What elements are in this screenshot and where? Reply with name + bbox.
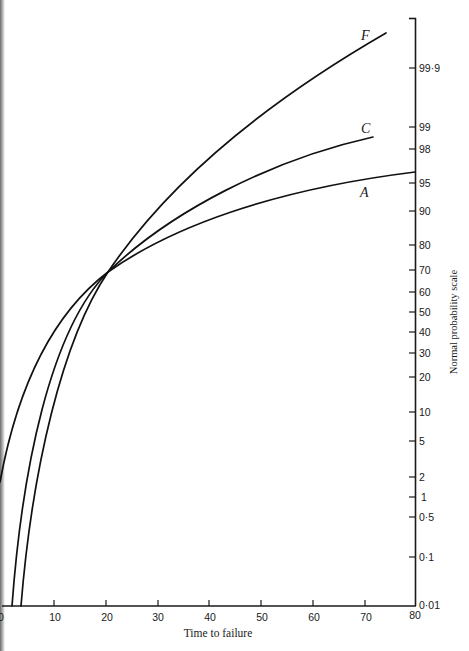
x-axis-title: Time to failure <box>184 627 253 639</box>
y-tick-label: 20 <box>419 371 431 383</box>
y-tick-label: 80 <box>419 239 431 251</box>
curve-label-A: A <box>359 185 369 200</box>
axes <box>2 18 416 606</box>
y-axis-title: Normal probability scale <box>448 269 459 374</box>
y-tick-label: 60 <box>419 286 431 298</box>
x-tick-label: 20 <box>101 611 113 623</box>
curve-A <box>0 172 415 482</box>
y-tick-label: 40 <box>419 326 431 338</box>
probability-chart: 0 10 20 30 40 50 60 70 80 Time to failur… <box>0 0 469 651</box>
x-tick-label: 10 <box>49 611 61 623</box>
curve-label-F: F <box>360 28 370 43</box>
y-tick-label: 50 <box>419 306 431 318</box>
curve-C <box>12 137 373 606</box>
y-tick-label: 0·5 <box>419 511 434 523</box>
x-tick-label: 70 <box>360 611 372 623</box>
x-tick-label: 50 <box>256 611 268 623</box>
y-tick-label: 1 <box>421 491 427 503</box>
y-tick-label: 0·1 <box>419 551 434 563</box>
y-tick-label: 2 <box>419 471 425 483</box>
y-tick-label: 5 <box>419 435 425 447</box>
x-tick-label: 0 <box>0 611 4 623</box>
x-tick-label: 40 <box>204 611 216 623</box>
y-tick-labels: 99·9 99 98 95 90 80 70 60 50 40 30 20 10… <box>419 62 440 611</box>
x-tick-label: 30 <box>152 611 164 623</box>
curves <box>0 33 415 606</box>
y-tick-label: 99·9 <box>419 62 440 74</box>
x-tick-label: 60 <box>308 611 320 623</box>
y-tick-label: 99 <box>419 121 431 133</box>
y-tick-label: 70 <box>419 264 431 276</box>
y-tick-label: 95 <box>419 177 431 189</box>
y-tick-label: 98 <box>419 143 431 155</box>
y-tick-label: 0·01 <box>419 599 440 611</box>
y-tick-label: 10 <box>419 406 431 418</box>
x-tick-labels: 0 10 20 30 40 50 60 70 80 <box>0 609 421 623</box>
y-tick-label: 30 <box>419 347 431 359</box>
y-tick-label: 90 <box>419 205 431 217</box>
curve-label-C: C <box>361 121 371 136</box>
curve-F <box>21 33 386 606</box>
x-ticks <box>54 600 365 606</box>
